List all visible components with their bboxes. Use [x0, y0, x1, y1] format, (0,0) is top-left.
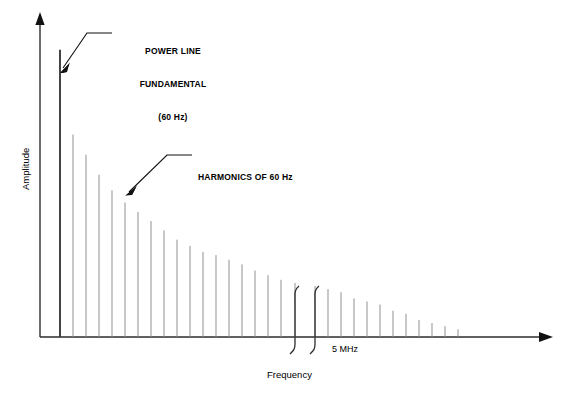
leader-harmonics [125, 155, 192, 196]
x-axis-label: Frequency [267, 369, 312, 380]
annotation-power-line-fundamental: POWER LINE FUNDAMENTAL (60 Hz) [118, 24, 228, 145]
y-axis [35, 12, 44, 337]
annotation-line-3: (60 Hz) [118, 112, 228, 123]
annotation-harmonics-line-1: HARMONICS OF 60 Hz [198, 172, 293, 183]
y-axis-label: Amplitude [20, 148, 31, 190]
x-axis [40, 332, 553, 342]
break-label: 5 MHz [332, 344, 358, 354]
leader-power-line-fundamental [60, 33, 112, 73]
figure-canvas: POWER LINE FUNDAMENTAL (60 Hz) HARMONICS… [0, 0, 562, 397]
axis-break [290, 286, 319, 354]
annotation-line-2: FUNDAMENTAL [118, 79, 228, 90]
annotation-harmonics: HARMONICS OF 60 Hz [198, 150, 293, 205]
annotation-line-1: POWER LINE [118, 46, 228, 57]
